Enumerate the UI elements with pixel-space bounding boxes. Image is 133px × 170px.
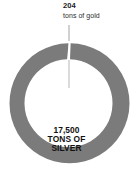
donut-hole — [53, 87, 85, 119]
gold-callout-label: tons of gold — [63, 12, 133, 19]
gold-callout: 204 tons of gold — [63, 2, 133, 19]
silver-label-line-3: SILVER — [0, 144, 133, 153]
silver-center-label: 17,500 TONS OF SILVER — [0, 126, 133, 153]
donut-chart-figure: 204 tons of gold 17,500 TONS OF SILVER — [0, 0, 133, 170]
gold-callout-value: 204 — [63, 2, 133, 10]
